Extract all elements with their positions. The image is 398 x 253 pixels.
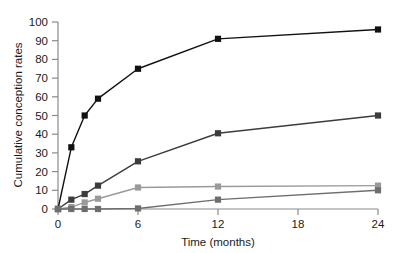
data-series-layer [55,26,381,212]
y-axis-tick-labels: 100 90 80 70 60 50 40 30 20 10 0 [29,16,48,215]
y-tick-label: 60 [35,91,48,103]
data-point-marker [95,183,101,189]
x-tick-label: 0 [55,218,61,230]
y-tick-label: 30 [35,147,48,159]
data-point-marker [68,197,74,203]
y-tick-label: 10 [35,184,48,196]
data-point-marker [215,36,221,42]
y-tick-label: 80 [35,53,48,65]
x-tick-label: 12 [212,218,225,230]
y-tick-label: 0 [42,203,48,215]
data-point-marker [68,206,74,212]
data-point-marker [95,96,101,102]
y-tick-label: 20 [35,166,48,178]
data-point-marker [215,197,221,203]
chart-figure: 100 90 80 70 60 50 40 30 20 10 0 0 6 12 … [0,0,398,253]
data-point-marker [95,206,101,212]
data-point-marker [135,158,141,164]
data-point-marker [82,191,88,197]
data-point-marker [82,206,88,212]
series-line [58,116,378,210]
y-axis-ticks [52,22,58,209]
data-point-marker [135,205,141,211]
data-point-marker [82,112,88,118]
data-point-marker [135,66,141,72]
data-point-marker [135,184,141,190]
x-axis-title: Time (months) [181,236,255,248]
data-point-marker [215,130,221,136]
x-tick-label: 24 [372,218,385,230]
series-line [58,29,378,209]
x-tick-label: 18 [292,218,305,230]
data-point-marker [55,206,61,212]
y-tick-label: 50 [35,110,48,122]
data-series [55,187,381,212]
data-point-marker [375,187,381,193]
y-axis-title: Cumulative conception rates [12,42,24,187]
data-point-marker [82,199,88,205]
x-tick-label: 6 [135,218,141,230]
y-tick-label: 100 [29,16,48,28]
y-tick-label: 70 [35,72,48,84]
line-chart: 100 90 80 70 60 50 40 30 20 10 0 0 6 12 … [0,0,398,253]
y-tick-label: 40 [35,128,48,140]
y-tick-label: 90 [35,35,48,47]
data-point-marker [375,112,381,118]
data-point-marker [215,183,221,189]
x-axis-ticks [58,209,378,215]
data-point-marker [68,144,74,150]
data-point-marker [95,196,101,202]
data-point-marker [375,26,381,32]
x-axis-tick-labels: 0 6 12 18 24 [55,218,385,230]
